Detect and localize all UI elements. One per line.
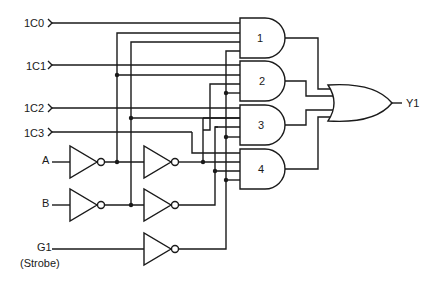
input-label-1c3: 1C3: [24, 127, 44, 139]
and-gate-1-label: 1: [257, 32, 263, 44]
input-label-g1: G1: [37, 241, 52, 253]
inverter-g1-icon: [144, 233, 171, 265]
and-gate-2-label: 2: [259, 75, 265, 87]
and-gate-4: 4: [240, 149, 285, 189]
and-gate-3: 3: [240, 105, 285, 145]
or-input-wires: [285, 38, 333, 169]
input-label-a: A: [42, 154, 50, 166]
input-label-1c2: 1C2: [24, 102, 44, 114]
input-label-1c0: 1C0: [24, 17, 44, 29]
inverter-b2-icon: [144, 189, 171, 221]
inverter-a-icon: [70, 146, 97, 178]
inverter-a2-icon: [144, 146, 171, 178]
and-gate-1: 1: [240, 18, 285, 58]
inverter-b-icon: [70, 189, 97, 221]
and-gate-4-label: 4: [258, 163, 264, 175]
output-label-y1: Y1: [406, 97, 419, 109]
or-gate: [328, 85, 402, 122]
input-label-1c1: 1C1: [26, 60, 46, 72]
and-gate-3-label: 3: [258, 119, 264, 131]
input-inverters: [52, 146, 144, 221]
input-arrow-icons: [48, 19, 52, 136]
input-label-b: B: [42, 197, 49, 209]
logic-diagram: 1C0 1C1 1C2 1C3 A B G1 (Strobe): [0, 0, 434, 287]
and-gate-2: 2: [240, 61, 285, 101]
strobe-note: (Strobe): [20, 257, 60, 269]
